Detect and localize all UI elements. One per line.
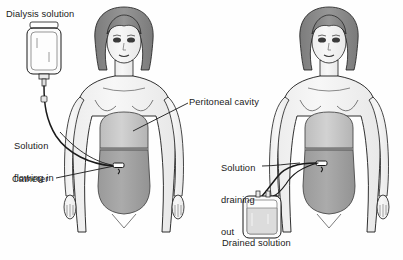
eye-right bbox=[127, 37, 135, 42]
peritoneal-dialysis-figure: Dialysis solution Solution flowing in Ca… bbox=[0, 0, 403, 260]
label-solution-flowing-in-line1: Solution bbox=[14, 141, 54, 152]
dialysis-solution-bag bbox=[27, 22, 61, 86]
peritoneal-cavity-upper bbox=[100, 112, 148, 148]
pelvis-lines bbox=[112, 214, 136, 228]
bag-port bbox=[39, 74, 49, 79]
label-solution-flowing-in: Solution flowing in bbox=[14, 120, 54, 205]
label-solution-draining-out-line3: out bbox=[221, 227, 255, 238]
eye-right bbox=[332, 37, 340, 42]
label-dialysis-solution: Dialysis solution bbox=[6, 9, 74, 20]
bag-port-a bbox=[256, 191, 260, 197]
illustration-canvas bbox=[0, 0, 403, 260]
label-peritoneal-cavity: Peritoneal cavity bbox=[189, 97, 259, 108]
pelvis-lines bbox=[317, 214, 341, 228]
peritoneal-cavity-upper bbox=[305, 112, 353, 148]
peritoneal-cavity-lower bbox=[98, 150, 150, 214]
label-drained-solution: Drained solution bbox=[222, 238, 291, 249]
tubing-clamp bbox=[41, 96, 47, 102]
label-solution-draining-out-line1: Solution bbox=[221, 163, 255, 174]
label-solution-draining-out-line2: draining bbox=[221, 195, 255, 206]
label-catheter: Catheter bbox=[12, 174, 48, 185]
peritoneal-cavity-lower bbox=[303, 150, 355, 214]
bag-port-b bbox=[266, 191, 270, 197]
bag-spike bbox=[42, 79, 46, 86]
eye-left bbox=[318, 37, 326, 42]
eye-left bbox=[113, 37, 121, 42]
patient-figure-right bbox=[243, 7, 389, 238]
bottom-caption-fragment bbox=[0, 252, 403, 260]
bag-hanger bbox=[30, 22, 58, 28]
